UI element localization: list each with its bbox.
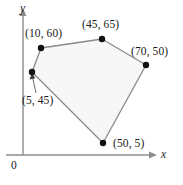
vertex-dot-10-60: [38, 45, 44, 51]
vertex-dot-50-5: [100, 140, 106, 146]
vertex-label-70-50: (70, 50): [131, 46, 168, 58]
x-axis-label: x: [161, 149, 166, 161]
leader-line: [33, 77, 37, 93]
y-axis-label: y: [20, 3, 25, 15]
polygon-shape: [32, 39, 146, 143]
origin-label: 0: [11, 160, 17, 172]
vertex-dot-45-65: [99, 36, 105, 42]
vertex-dot-5-45: [29, 69, 35, 75]
figure-container: (10, 60) (45, 65) (70, 50) (50, 5) (5, 4…: [0, 0, 183, 185]
vertex-label-50-5: (50, 5): [113, 138, 144, 150]
vertex-label-45-65: (45, 65): [82, 19, 119, 31]
vertex-label-10-60: (10, 60): [25, 28, 62, 40]
x-axis-arrowhead: [149, 152, 157, 159]
vertex-dot-70-50: [143, 62, 149, 68]
vertex-label-5-45: (5, 45): [22, 95, 53, 107]
